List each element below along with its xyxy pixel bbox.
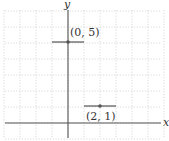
y-axis-label: y [63,0,71,11]
point-marker-2-1 [98,104,102,108]
point-0-5: (0, 5) [52,26,100,44]
point-2-1: (2, 1) [84,104,116,123]
point-label-2-1: (2, 1) [86,110,116,123]
point-marker-0-5 [66,40,70,44]
coordinate-plane: x y (0, 5) (2, 1) [0,0,169,141]
point-label-0-5: (0, 5) [70,26,100,39]
x-axis-label: x [163,116,169,129]
